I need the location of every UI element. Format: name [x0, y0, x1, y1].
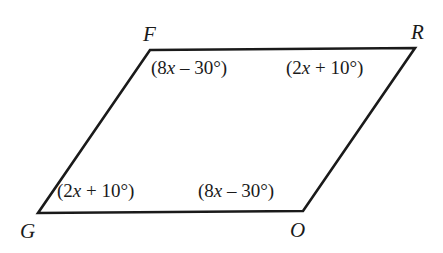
- angle-r-variable: x: [302, 57, 310, 78]
- angle-g-suffix: + 10°): [81, 180, 134, 201]
- angle-f-prefix: (8: [151, 57, 167, 78]
- vertex-label-f: F: [143, 24, 156, 45]
- angle-g-variable: x: [73, 180, 81, 201]
- angle-expression-o: (8x – 30°): [198, 181, 274, 200]
- angle-f-variable: x: [167, 57, 175, 78]
- vertex-label-r: R: [411, 22, 424, 43]
- angle-expression-r: (2x + 10°): [286, 58, 363, 77]
- vertex-label-g: G: [20, 221, 35, 242]
- angle-r-suffix: + 10°): [310, 57, 363, 78]
- angle-expression-g: (2x + 10°): [57, 181, 134, 200]
- angle-o-prefix: (8: [198, 180, 214, 201]
- parallelogram-shape: [0, 0, 443, 253]
- angle-expression-f: (8x – 30°): [151, 58, 227, 77]
- angle-g-prefix: (2: [57, 180, 73, 201]
- geometry-figure: F R G O (8x – 30°) (2x + 10°) (2x + 10°)…: [0, 0, 443, 253]
- angle-o-variable: x: [214, 180, 222, 201]
- angle-o-suffix: – 30°): [222, 180, 274, 201]
- vertex-label-o: O: [290, 220, 305, 241]
- angle-f-suffix: – 30°): [175, 57, 227, 78]
- angle-r-prefix: (2: [286, 57, 302, 78]
